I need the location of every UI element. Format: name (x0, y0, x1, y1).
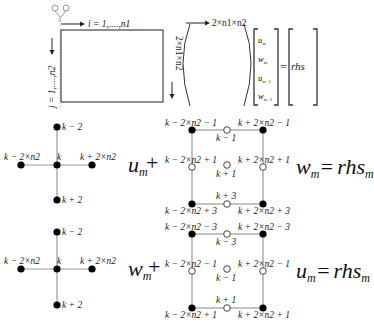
label-bottom-right: k + 2×n2 + 3 (238, 206, 290, 216)
matrix-width-label: 2×n1×n2 (212, 18, 247, 28)
term-u-m: um (128, 152, 148, 179)
diagram-canvas: i = 1,....,n1 j = 1,....,n2 2×n1×n2 2×n1… (0, 0, 374, 326)
vector-entry-w-m1: wm+1 (258, 91, 272, 102)
label-top-mid: k − 3 (216, 237, 236, 247)
stencil-w-box: k − 2×n2 − 3 k + 2×n2 − 3 k − 3 k − 2×n2… (165, 222, 290, 320)
label-mid-left: k − 2×n2 − 1 (165, 259, 217, 269)
label-bottom-left: k − 2×n2 + 3 (165, 206, 217, 216)
label-bottom-mid: k + 1 (216, 295, 236, 305)
label-right: k + 2×n2 (80, 152, 116, 162)
col-arrow (50, 38, 55, 55)
label-center: k (57, 256, 62, 266)
label-center: k (57, 152, 62, 162)
label-top-mid: k − 1 (216, 133, 236, 143)
label-bottom: k + 2 (62, 300, 82, 310)
stencil-w-cross: k − 2 k − 2×n2 k k + 2×n2 k + 2 (4, 227, 116, 310)
label-bottom-mid: k + 3 (216, 191, 236, 201)
right-paren (244, 24, 251, 106)
row-index-label: i = 1,....,n1 (88, 19, 130, 29)
label-top-left: k − 2×n2 − 3 (165, 222, 217, 232)
rhs-label: rhs (291, 60, 305, 72)
label-bottom-left: k − 2×n2 + 1 (165, 310, 217, 320)
label-top-left: k − 2×n2 − 1 (165, 118, 217, 128)
unknown-vector: um wm um+1 wm+1 (254, 29, 278, 105)
vector-entry-u-m1: um+1 (258, 73, 271, 84)
equals-sign: = (280, 60, 287, 74)
matrix-rect (61, 30, 163, 102)
matrix-height-label: 2×n1×n2 (174, 36, 184, 71)
vector-entry-w-m: wm (258, 54, 268, 65)
stencil-u-cross: k − 2 k − 2×n2 k k + 2×n2 k + 2 (4, 122, 116, 205)
label-left: k − 2×n2 (4, 256, 40, 266)
equation-w-rhs: wm=rhsm (296, 154, 374, 181)
vector-entry-u-m: um (258, 35, 266, 46)
row-arrow (61, 22, 85, 27)
label-mid-left: k − 2×n2 + 1 (165, 155, 217, 165)
rhs-vector: rhs (289, 29, 317, 105)
label-left: k − 2×n2 (4, 152, 40, 162)
matrix-panel: i = 1,....,n1 j = 1,....,n2 2×n1×n2 2×n1… (47, 5, 317, 110)
stencil-u-box: k − 2×n2 − 1 k + 2×n2 − 1 k − 1 k − 2×n2… (165, 118, 290, 216)
height-arrow (170, 82, 175, 99)
label-bottom-right: k + 2×n2 + 1 (238, 310, 290, 320)
grid-origin-icon (52, 5, 69, 22)
plus-sign: + (148, 254, 160, 279)
label-top: k − 2 (62, 227, 82, 237)
label-top-right: k + 2×n2 − 1 (238, 118, 290, 128)
label-center: k + 1 (216, 169, 236, 179)
label-right: k + 2×n2 (80, 256, 116, 266)
label-bottom: k + 2 (62, 195, 82, 205)
label-mid-right: k + 2×n2 − 1 (238, 259, 290, 269)
col-index-label: j = 1,....,n2 (47, 65, 57, 110)
label-top: k − 2 (62, 122, 82, 132)
label-center: k − 1 (216, 273, 236, 283)
plus-sign: + (146, 150, 158, 175)
label-top-right: k + 2×n2 − 3 (238, 222, 290, 232)
equation-u-rhs: um=rhsm (296, 258, 370, 285)
label-mid-right: k + 2×n2 + 1 (238, 155, 290, 165)
